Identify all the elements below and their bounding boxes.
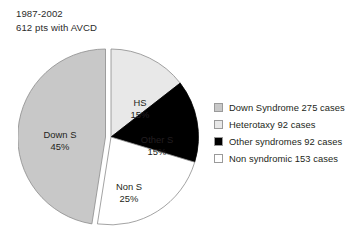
- slice-label-non-s-name: Non S: [116, 181, 142, 192]
- legend-label: Down Syndrome 275 cases: [229, 102, 345, 113]
- slice-label-other-s-name: Other S: [141, 134, 173, 145]
- caption-period: 1987-2002: [16, 7, 97, 21]
- legend-swatch-icon: [214, 103, 223, 112]
- legend-label: Non syndromic 153 cases: [229, 153, 338, 164]
- legend-swatch-icon: [214, 120, 223, 129]
- slice-label-down-s-percent: 45%: [51, 141, 70, 152]
- legend-item-non-syndromic[interactable]: Non syndromic 153 cases: [214, 150, 362, 167]
- legend-item-other-syndromes[interactable]: Other syndromes 92 cases: [214, 133, 362, 150]
- legend-label: Heterotaxy 92 cases: [229, 119, 315, 130]
- legend-swatch-icon: [214, 154, 223, 163]
- chart-caption: 1987-2002 612 pts with AVCD: [16, 7, 97, 34]
- pie-chart: HS 15% Other S 15% Non S 25% Down S 45%: [18, 42, 204, 234]
- legend-item-down-syndrome[interactable]: Down Syndrome 275 cases: [214, 99, 362, 116]
- slice-label-hs-percent: 15%: [131, 109, 150, 120]
- slice-label-non-s-percent: 25%: [120, 193, 139, 204]
- caption-subjects: 612 pts with AVCD: [16, 21, 97, 35]
- legend-label: Other syndromes 92 cases: [229, 136, 342, 147]
- slice-label-hs-name: HS: [133, 97, 146, 108]
- chart-legend: Down Syndrome 275 cases Heterotaxy 92 ca…: [214, 99, 362, 167]
- legend-swatch-icon: [214, 137, 223, 146]
- legend-item-heterotaxy[interactable]: Heterotaxy 92 cases: [214, 116, 362, 133]
- slice-label-down-s-name: Down S: [44, 129, 77, 140]
- slice-label-other-s-percent: 15%: [148, 146, 167, 157]
- pie-chart-figure: 1987-2002 612 pts with AVCD HS 15% Other…: [0, 0, 363, 242]
- pie-svg: HS 15% Other S 15% Non S 25% Down S 45%: [18, 42, 204, 234]
